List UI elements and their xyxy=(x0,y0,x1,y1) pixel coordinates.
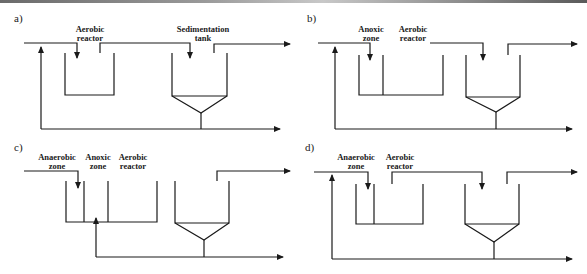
reactor-tank xyxy=(359,55,443,95)
panel-a: a) Aerobic reactor Sedimentation tank xyxy=(14,12,290,129)
label-aerobic-reactor-2: reactor xyxy=(120,161,146,171)
label-anaerobic-zone-2: zone xyxy=(348,161,365,171)
panel-c: c) Anaerobic zone Anoxic zone Aerobic re… xyxy=(14,141,290,257)
label-aerobic-reactor-2: reactor xyxy=(400,33,426,43)
panel-label-b: b) xyxy=(307,12,317,25)
label-aerobic-reactor-2: reactor xyxy=(77,33,103,43)
panel-label-d: d) xyxy=(305,141,315,154)
panel-b: b) Anoxic zone Aerobic reactor xyxy=(307,12,577,129)
clarifier-hopper xyxy=(175,223,229,240)
panel-label-c: c) xyxy=(14,141,23,154)
influent-line xyxy=(318,43,370,60)
influent-line xyxy=(314,172,368,189)
transfer-line xyxy=(392,172,482,189)
label-sedimentation-tank-2: tank xyxy=(195,33,212,43)
influent-line xyxy=(24,43,77,58)
clarifier-walls xyxy=(466,55,520,97)
panel-d: d) Anaerobic zone Aerobic reactor xyxy=(305,141,577,259)
effluent-line xyxy=(214,44,290,53)
clarifier-hopper xyxy=(172,96,227,113)
panel-label-a: a) xyxy=(14,12,23,25)
influent-line xyxy=(24,171,78,188)
reactor-tank xyxy=(356,184,423,224)
clarifier-walls xyxy=(172,53,227,96)
clarifier-hopper xyxy=(466,97,520,112)
effluent-line xyxy=(508,44,577,55)
process-diagrams: a) Aerobic reactor Sedimentation tank b)… xyxy=(0,0,587,274)
aerobic-reactor-tank xyxy=(65,53,114,95)
label-aerobic-reactor-2: reactor xyxy=(387,161,413,171)
effluent-line xyxy=(507,172,577,184)
label-anaerobic-zone-2: zone xyxy=(49,161,66,171)
effluent-line xyxy=(217,171,290,181)
reactor-tank xyxy=(66,181,157,222)
label-anoxic-zone-2: zone xyxy=(90,161,107,171)
label-anoxic-zone-2: zone xyxy=(363,33,380,43)
clarifier-walls xyxy=(175,181,229,223)
transfer-line xyxy=(430,43,483,60)
clarifier-hopper xyxy=(465,224,519,242)
clarifier-walls xyxy=(465,184,519,224)
